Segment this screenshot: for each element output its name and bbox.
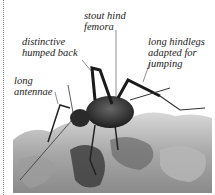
label-long-antennae: long antennae bbox=[14, 75, 53, 97]
label-line: distinctive bbox=[22, 36, 78, 47]
label-line: humped back bbox=[22, 47, 78, 58]
label-line: adapted for bbox=[148, 47, 205, 58]
label-distinctive-humped-back: distinctive humped back bbox=[22, 36, 78, 58]
label-line: jumping bbox=[148, 58, 205, 69]
dotted-left-border bbox=[3, 0, 4, 195]
label-line: stout hind bbox=[84, 10, 126, 21]
label-line: antennae bbox=[14, 86, 53, 97]
label-stout-hind-femora: stout hind femora bbox=[84, 10, 126, 32]
label-line: long hindlegs bbox=[148, 36, 205, 47]
label-long-hindlegs: long hindlegs adapted for jumping bbox=[148, 36, 205, 69]
label-line: long bbox=[14, 75, 53, 86]
label-line: femora bbox=[84, 21, 126, 32]
